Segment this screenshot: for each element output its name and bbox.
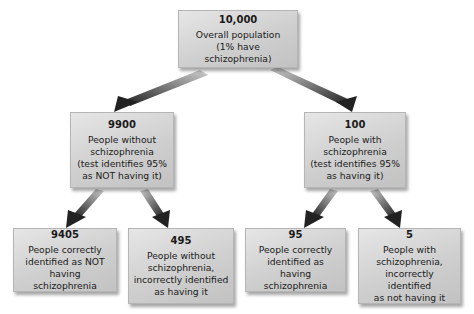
node-count: 9900 <box>108 119 136 131</box>
arrow-with-to-true-positive-icon <box>304 189 338 228</box>
node-label: People correctly identified as having sc… <box>250 244 341 292</box>
node-true-positive: 95 People correctly identified as having… <box>245 228 346 292</box>
arrow-with-to-false-negative-icon <box>370 189 402 228</box>
arrow-without-to-false-positive-icon <box>140 189 170 228</box>
node-overall-population: 10,000 Overall population (1% have schiz… <box>178 10 298 68</box>
node-count: 100 <box>345 119 366 131</box>
arrow-without-to-true-negative-icon <box>66 189 104 228</box>
node-label: People correctly identified as NOT havin… <box>18 244 112 292</box>
node-count: 5 <box>406 229 413 241</box>
node-true-negative: 9405 People correctly identified as NOT … <box>13 228 117 292</box>
node-count: 495 <box>171 235 192 247</box>
node-count: 9405 <box>51 229 79 241</box>
arrow-root-to-without-icon <box>114 70 208 112</box>
node-count: 95 <box>289 229 303 241</box>
node-with-schizophrenia: 100 People with schizophrenia (test iden… <box>304 112 406 188</box>
arrow-root-to-with-icon <box>270 67 357 112</box>
node-false-negative: 5 People with schizophrenia, incorrectly… <box>358 228 461 304</box>
node-without-schizophrenia: 9900 People without schizophrenia (test … <box>70 112 174 188</box>
node-label: People without schizophrenia (test ident… <box>77 134 167 182</box>
node-label: Overall population (1% have schizophreni… <box>183 29 293 65</box>
node-count: 10,000 <box>219 14 258 26</box>
node-false-positive: 495 People without schizophrenia, incorr… <box>128 228 234 304</box>
node-label: People with schizophrenia (test identifi… <box>310 134 400 182</box>
node-label: People without schizophrenia, incorrectl… <box>134 250 229 298</box>
node-label: People with schizophrenia, incorrectly i… <box>363 244 456 304</box>
